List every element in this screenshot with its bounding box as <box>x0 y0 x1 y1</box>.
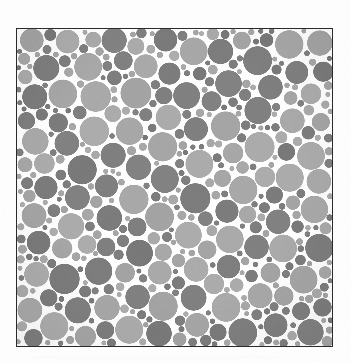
circle-packing-plate <box>16 28 333 347</box>
figure-title: Random circle packing plate <box>0 0 1 1</box>
circle-packing-canvas <box>17 29 332 346</box>
page-sheet: Random circle packing plate Dense random… <box>0 0 351 363</box>
figure-description: Dense random packing of non-overlapping … <box>0 0 1 1</box>
